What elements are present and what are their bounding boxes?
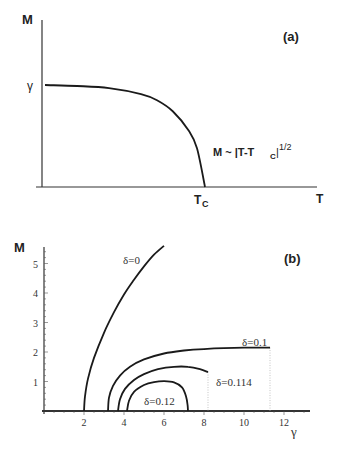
y-tick-label: 3	[33, 318, 38, 329]
panel-a: M (a) γ T T C M ~ |T-T C | 1/2	[22, 12, 324, 209]
x-tick-label: 12	[279, 417, 289, 428]
curve--0	[84, 246, 164, 411]
panel-b-x-axis-label: γ	[290, 424, 297, 439]
svg-text:C: C	[202, 199, 209, 209]
panel-a-tc-tick-label: T C	[194, 193, 209, 209]
x-tick-label: 6	[162, 417, 167, 428]
panel-a-y-axis-label: M	[22, 12, 33, 27]
x-tick-label: 2	[82, 417, 87, 428]
svg-text:M ~ |T-T: M ~ |T-T	[213, 146, 255, 158]
y-tick-label: 5	[33, 259, 38, 270]
panel-b-y-axis-label: M	[14, 240, 25, 255]
panel-a-gamma-tick-label: γ	[27, 79, 33, 93]
svg-text:1/2: 1/2	[279, 142, 292, 152]
figure: M (a) γ T T C M ~ |T-T C | 1/2 12345 246…	[0, 0, 342, 454]
panel-a-magnetization-curve	[45, 85, 205, 187]
x-tick-label: 4	[122, 417, 127, 428]
panel-b-y-ticks: 12345	[33, 252, 48, 405]
y-tick-label: 1	[33, 377, 38, 388]
curve-label: δ=0.114	[216, 376, 252, 388]
panel-a-tag: (a)	[283, 29, 299, 44]
curve-label: δ=0.1	[242, 336, 267, 348]
curve-label: δ=0	[123, 254, 140, 266]
svg-text:T: T	[194, 193, 202, 207]
panel-b-x-ticks: 24681012	[54, 411, 304, 428]
panel-a-x-axis-label: T	[316, 192, 324, 206]
y-tick-label: 4	[33, 288, 38, 299]
x-tick-label: 8	[202, 417, 207, 428]
panel-a-critical-annotation: M ~ |T-T C | 1/2	[213, 142, 292, 161]
panel-b-tag: (b)	[284, 251, 301, 266]
panel-b: 12345 24681012 δ=0δ=0.1δ=0.114δ=0.12 M (…	[14, 240, 310, 439]
x-tick-label: 10	[239, 417, 249, 428]
curve-label: δ=0.12	[144, 395, 175, 407]
y-tick-label: 2	[33, 347, 38, 358]
